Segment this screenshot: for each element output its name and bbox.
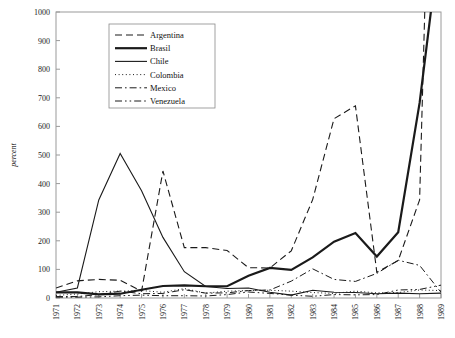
y-tick-label: 700 [38, 94, 50, 103]
x-tick-label: 1978 [202, 304, 211, 320]
x-tick-label: 1986 [373, 304, 382, 320]
x-tick-label: 1983 [309, 304, 318, 320]
legend-label-chile: Chile [150, 56, 169, 66]
y-tick-label: 500 [38, 151, 50, 160]
series-line-chile [56, 154, 441, 296]
legend-label-colombia: Colombia [150, 70, 184, 80]
y-axis-title: percent [9, 142, 18, 167]
legend-label-argentina: Argentina [150, 30, 184, 40]
y-tick-label: 1000 [34, 8, 50, 17]
chart-container: 01002003004005006007008009001000 1971197… [0, 0, 455, 338]
y-tick-label: 800 [38, 65, 50, 74]
x-tick-label: 1982 [287, 304, 296, 320]
y-tick-label: 600 [38, 122, 50, 131]
line-chart: 01002003004005006007008009001000 1971197… [0, 0, 455, 338]
y-tick-label: 200 [38, 237, 50, 246]
x-tick-label: 1987 [394, 304, 403, 320]
x-tick-label: 1977 [180, 304, 189, 320]
x-tick-label: 1984 [330, 304, 339, 320]
x-tick-label: 1989 [437, 304, 446, 320]
y-tick-label: 300 [38, 208, 50, 217]
legend-label-venezuela: Venezuela [150, 96, 185, 106]
x-tick-label: 1980 [245, 304, 254, 320]
y-tick-label: 0 [46, 294, 50, 303]
chart-legend: ArgentinaBrasilChileColombiaMexicoVenezu… [109, 24, 215, 108]
x-tick-label: 1975 [138, 304, 147, 320]
y-tick-label: 400 [38, 180, 50, 189]
x-tick-label: 1979 [223, 304, 232, 320]
x-tick-label: 1988 [416, 304, 425, 320]
legend-label-brasil: Brasil [150, 43, 171, 53]
x-tick-label: 1973 [95, 304, 104, 320]
x-tick-label: 1974 [116, 304, 125, 320]
x-tick-label: 1972 [73, 304, 82, 320]
y-tick-label: 100 [38, 265, 50, 274]
x-tick-label: 1985 [351, 304, 360, 320]
x-tick-label: 1981 [266, 304, 275, 320]
y-tick-label: 900 [38, 37, 50, 46]
x-tick-label: 1971 [52, 304, 61, 320]
x-tick-label: 1976 [159, 304, 168, 320]
legend-label-mexico: Mexico [150, 83, 176, 93]
